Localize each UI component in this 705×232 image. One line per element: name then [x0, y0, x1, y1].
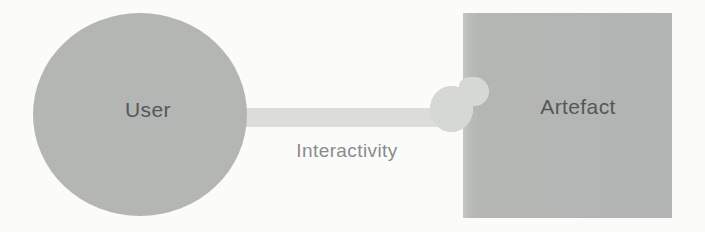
connector-plug-tongue [459, 77, 489, 106]
user-node-label: User [125, 98, 171, 122]
interactivity-connector-bar [235, 108, 457, 127]
interactivity-connector-label: Interactivity [296, 140, 397, 162]
artefact-node-label: Artefact [540, 95, 616, 119]
diagram-canvas: User Artefact Interactivity [0, 0, 705, 232]
